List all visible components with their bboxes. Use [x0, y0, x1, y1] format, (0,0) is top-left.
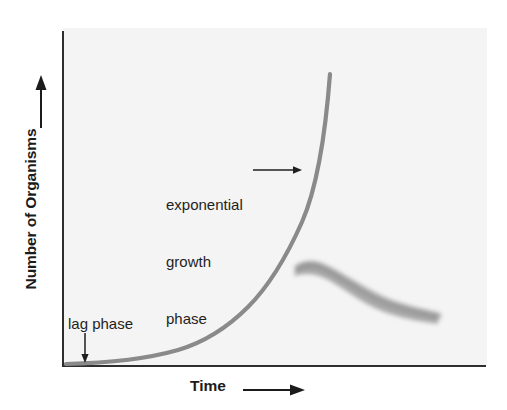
y-axis-line [62, 31, 64, 367]
x-axis-title-arrow-head [290, 385, 305, 396]
exponential-label-line-1: exponential [166, 195, 243, 214]
x-axis-title-group: Time [190, 377, 226, 395]
exponential-label-line-3: phase [166, 309, 243, 328]
x-axis-title: Time [190, 377, 226, 395]
lag-phase-label: lag phase [68, 315, 133, 333]
x-axis-line [62, 365, 486, 367]
growth-curve-figure: Number of Organisms Time exponential gro… [0, 0, 507, 410]
exponential-label-line-2: growth [166, 252, 243, 271]
y-axis-title-group: Number of Organisms [0, 70, 58, 355]
y-axis-title: Number of Organisms [22, 84, 40, 334]
exponential-growth-phase-label: exponential growth phase [166, 157, 243, 366]
